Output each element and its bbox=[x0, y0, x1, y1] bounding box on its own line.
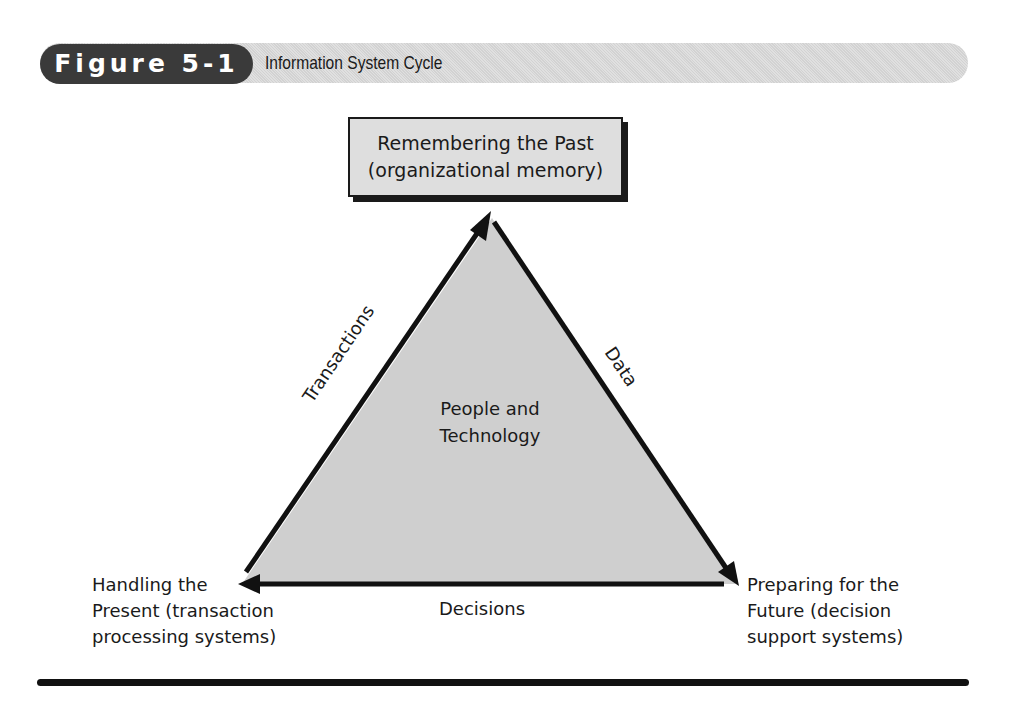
top-node-line2: (organizational memory) bbox=[368, 157, 603, 184]
left-node-line2: Present (transaction bbox=[92, 598, 276, 624]
people-and-technology-label: People and Technology bbox=[405, 395, 575, 449]
handling-the-present-node: Handling the Present (transaction proces… bbox=[92, 572, 276, 650]
right-node-line3: support systems) bbox=[747, 624, 903, 650]
bottom-divider bbox=[37, 679, 969, 686]
decisions-label: Decisions bbox=[439, 598, 525, 619]
left-node-line1: Handling the bbox=[92, 572, 276, 598]
center-line1: People and bbox=[405, 395, 575, 422]
right-node-line2: Future (decision bbox=[747, 598, 903, 624]
right-node-line1: Preparing for the bbox=[747, 572, 903, 598]
center-line2: Technology bbox=[405, 422, 575, 449]
preparing-for-the-future-node: Preparing for the Future (decision suppo… bbox=[747, 572, 903, 650]
left-node-line3: processing systems) bbox=[92, 624, 276, 650]
remembering-the-past-node: Remembering the Past (organizational mem… bbox=[348, 117, 623, 197]
top-node-line1: Remembering the Past bbox=[377, 130, 594, 157]
